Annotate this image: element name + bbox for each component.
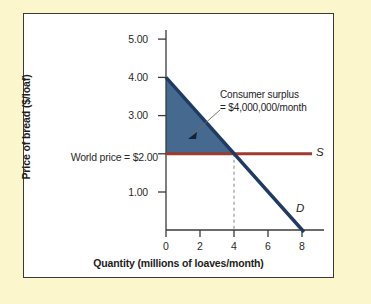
y-tick-label-5: 5.00 xyxy=(96,33,148,45)
consumer-surplus-annotation-line1: Consumer surplus xyxy=(220,89,307,102)
x-tick-label-8: 8 xyxy=(292,240,312,252)
y-tick-label-1: 1.00 xyxy=(96,186,148,198)
x-tick-label-6: 6 xyxy=(258,240,278,252)
x-tick-label-0: 0 xyxy=(156,240,176,252)
consumer-surplus-annotation: Consumer surplus = $4,000,000/month xyxy=(220,89,307,114)
supply-curve-label: S xyxy=(316,146,324,158)
x-tick-label-4: 4 xyxy=(224,240,244,252)
y-tick-label-3: 3.00 xyxy=(96,109,148,121)
world-price-text: World price = $2.00 xyxy=(71,151,158,163)
consumer-surplus-annotation-line2: = $4,000,000/month xyxy=(220,102,307,115)
figure-panel: Price of bread ($/loaf) 5.00 4.00 3 xyxy=(23,13,334,278)
x-axis-title: Quantity (millions of loaves/month) xyxy=(24,257,333,269)
demand-curve-label: D xyxy=(296,202,304,214)
world-price-label: World price = $2.00 xyxy=(32,147,158,165)
x-tick-label-2: 2 xyxy=(190,240,210,252)
y-tick-label-4: 4.00 xyxy=(96,71,148,83)
